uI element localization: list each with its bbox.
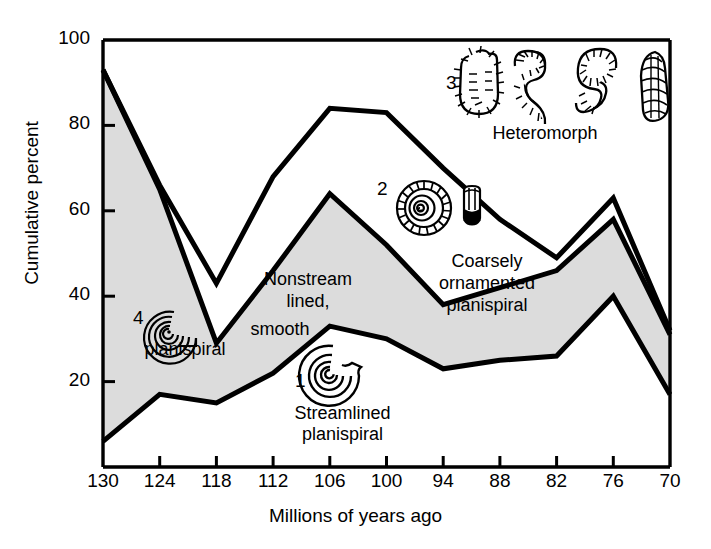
band3-number: 3 bbox=[446, 72, 457, 94]
band4-number: 4 bbox=[133, 307, 144, 329]
band4-caption-lined: lined, bbox=[248, 292, 368, 311]
x-tick-label-106: 106 bbox=[300, 470, 360, 492]
y-tick-label-80: 80 bbox=[38, 112, 90, 134]
band3-caption: Heteromorph bbox=[455, 124, 635, 143]
x-axis-title: Millions of years ago bbox=[0, 505, 711, 527]
x-tick-label-70: 70 bbox=[640, 470, 700, 492]
y-tick-label-20: 20 bbox=[38, 369, 90, 391]
y-tick-label-100: 100 bbox=[38, 27, 90, 49]
band2-caption-line1: Coarsely bbox=[412, 252, 562, 271]
y-tick-label-40: 40 bbox=[38, 283, 90, 305]
band1-caption-line2: planispiral bbox=[265, 425, 420, 444]
x-tick-label-82: 82 bbox=[527, 470, 587, 492]
x-tick-label-112: 112 bbox=[243, 470, 303, 492]
band2-number: 2 bbox=[377, 178, 388, 200]
band4-caption-planispiral: planispiral bbox=[120, 340, 250, 359]
band2-caption-line3: planispiral bbox=[412, 296, 562, 315]
band2-caption-line2: ornamented bbox=[412, 274, 562, 293]
x-tick-label-88: 88 bbox=[470, 470, 530, 492]
x-tick-label-130: 130 bbox=[73, 470, 133, 492]
band1-number: 1 bbox=[295, 370, 306, 392]
ammonite-morphology-cumulative-area-chart: Cumulative percent Millions of years ago… bbox=[0, 0, 711, 549]
x-tick-label-94: 94 bbox=[413, 470, 473, 492]
x-tick-label-124: 124 bbox=[130, 470, 190, 492]
x-tick-label-100: 100 bbox=[357, 470, 417, 492]
x-tick-label-118: 118 bbox=[186, 470, 246, 492]
band1-caption-line1: Streamlined bbox=[265, 404, 420, 423]
band4-caption-smooth: smooth bbox=[220, 320, 340, 339]
band4-caption-nonstream: Nonstream bbox=[248, 270, 368, 289]
y-tick-label-60: 60 bbox=[38, 198, 90, 220]
x-tick-label-76: 76 bbox=[583, 470, 643, 492]
